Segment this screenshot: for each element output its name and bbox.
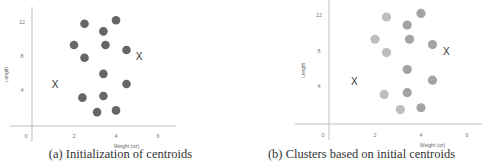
data-point <box>112 106 121 115</box>
x-tick-label: 2 <box>373 132 376 138</box>
x-tick-label: 4 <box>114 133 117 139</box>
x-tick-label: 4 <box>419 132 422 138</box>
y-axis-label: Length <box>3 67 9 83</box>
chart-panel-b: 02464812Weight (oz)LengthXX (b) Clusters… <box>241 0 482 168</box>
x-tick-label: 0 <box>321 132 324 138</box>
y-axis-label: Length <box>300 63 306 79</box>
data-point <box>122 46 131 55</box>
y-tick-label: 4 <box>317 83 320 89</box>
data-point <box>99 70 108 79</box>
y-tick-label: 12 <box>316 12 322 18</box>
centroid-marker: X <box>136 51 143 62</box>
centroid-marker: X <box>443 46 450 57</box>
data-point <box>112 16 121 25</box>
data-point <box>101 41 110 50</box>
scatter-plot-a: 02464812Weight (oz)LengthXX <box>0 0 241 150</box>
data-point <box>80 19 89 28</box>
data-point <box>428 76 437 85</box>
data-point <box>78 93 87 102</box>
caption-b: (b) Clusters based on initial centroids <box>241 147 482 162</box>
data-point <box>428 40 437 49</box>
data-point <box>370 35 379 44</box>
data-point <box>382 48 391 57</box>
x-tick-label: 6 <box>156 133 159 139</box>
y-tick-label: 4 <box>20 87 23 93</box>
data-point <box>93 108 102 117</box>
y-tick-label: 8 <box>317 48 320 54</box>
data-point <box>382 12 391 21</box>
x-tick-label: 0 <box>24 133 27 139</box>
data-point <box>80 53 89 62</box>
data-point <box>403 20 412 29</box>
data-point <box>396 105 405 114</box>
y-tick-label: 8 <box>20 53 23 59</box>
data-point <box>403 65 412 74</box>
data-point <box>70 41 79 50</box>
data-point <box>99 27 108 36</box>
y-tick-label: 12 <box>19 19 25 25</box>
data-point <box>416 103 425 112</box>
data-point <box>99 92 108 101</box>
centroid-marker: X <box>351 76 358 87</box>
x-tick-label: 6 <box>465 132 468 138</box>
data-point <box>380 90 389 99</box>
data-point <box>122 80 131 89</box>
scatter-plot-b: 02464812Weight (oz)LengthXX <box>241 0 482 150</box>
chart-panel-a: 02464812Weight (oz)LengthXX (a) Initiali… <box>0 0 241 168</box>
centroid-marker: X <box>52 79 59 90</box>
data-point <box>405 35 414 44</box>
x-tick-label: 2 <box>72 133 75 139</box>
data-point <box>403 88 412 97</box>
data-point <box>416 9 425 18</box>
caption-a: (a) Initialization of centroids <box>0 147 241 162</box>
